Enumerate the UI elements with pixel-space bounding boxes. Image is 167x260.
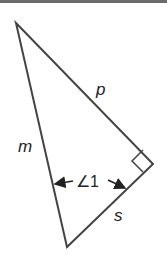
angle-arrow-left — [55, 181, 73, 184]
side-s-label: s — [114, 206, 123, 225]
triangle — [16, 23, 153, 247]
angle-1-label: ∠1 — [76, 173, 99, 190]
side-p-label: p — [95, 80, 105, 99]
side-m-label: m — [18, 137, 32, 156]
triangle-diagram: p m s ∠1 — [0, 0, 167, 260]
angle-arrow-right — [108, 180, 125, 188]
